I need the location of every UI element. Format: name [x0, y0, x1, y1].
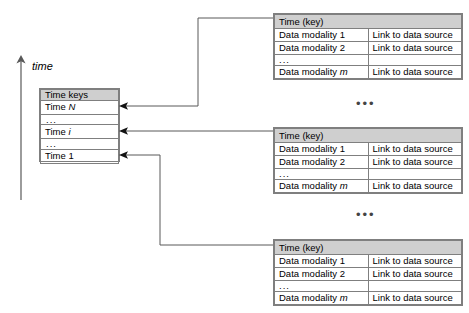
time-keys-label-time-N: Time N	[45, 101, 75, 112]
modality-table-2-link-m[interactable]: Link to data source	[368, 180, 462, 193]
table-row-ellipsis: ...	[275, 55, 462, 66]
time-keys-row-time-1[interactable]: Time 1	[41, 149, 119, 163]
time-keys-row-time-i[interactable]: Time i	[41, 125, 119, 139]
time-keys-row-time-N[interactable]: Time N	[41, 100, 119, 114]
time-axis-arrow	[12, 52, 32, 200]
modality-table-1-link-2[interactable]: Link to data source	[368, 42, 462, 55]
time-keys-header-row: Time keys	[41, 90, 119, 101]
modality-table-2-link-1[interactable]: Link to data source	[368, 143, 462, 156]
modality-table-3-header-row: Time (key)	[275, 241, 462, 255]
table-row: Data modality m Link to data source	[275, 292, 462, 305]
table-row-ellipsis: ...	[275, 281, 462, 292]
modality-table-3-header: Time (key)	[275, 241, 462, 255]
time-keys-row-ellipsis-lower: ...	[41, 139, 119, 150]
time-keys-header: Time keys	[41, 90, 119, 101]
table-row-ellipsis: ...	[275, 169, 462, 180]
modality-table-2-ellipsis: ...	[275, 169, 369, 180]
time-keys-label-time-i: Time i	[45, 126, 71, 137]
arrowhead-timeN-icon	[119, 102, 128, 110]
gap-ellipsis-upper: •••	[356, 97, 376, 110]
modality-table-3-link-1[interactable]: Link to data source	[368, 255, 462, 268]
table-row: Data modality m Link to data source	[275, 180, 462, 193]
modality-table-3-link-m[interactable]: Link to data source	[368, 292, 462, 305]
time-keys-cell-time-N: Time N	[41, 100, 119, 114]
time-keys-cell-time-1: Time 1	[41, 149, 119, 163]
modality-table-3: Time (key) Data modality 1 Link to data …	[273, 239, 463, 306]
modality-table-1-modality-2: Data modality 2	[275, 42, 369, 55]
modality-table-2-link-2[interactable]: Link to data source	[368, 156, 462, 169]
modality-table-2-header: Time (key)	[275, 129, 462, 143]
time-axis-label: time	[32, 60, 53, 72]
modality-table-1-header-row: Time (key)	[275, 15, 462, 29]
modality-table-2-modality-2: Data modality 2	[275, 156, 369, 169]
time-keys-table: Time keys Time N ... Time i ... Time 1	[39, 88, 120, 162]
modality-table-1-modality-m: Data modality m	[275, 66, 369, 79]
arrowhead-time1-icon	[119, 151, 128, 159]
table-row: Data modality 1 Link to data source	[275, 255, 462, 268]
modality-table-2-header-row: Time (key)	[275, 129, 462, 143]
time-keys-cell-ellipsis-upper: ...	[41, 114, 119, 125]
table-row: Data modality 1 Link to data source	[275, 143, 462, 156]
modality-table-1-modality-1: Data modality 1	[275, 29, 369, 42]
modality-table-3-ellipsis-link	[368, 281, 462, 292]
modality-table-1-ellipsis: ...	[275, 55, 369, 66]
diagram-canvas: time Time keys Time N ... Time i ... Tim…	[0, 0, 469, 313]
connector-table1-to-timeN	[126, 18, 273, 106]
modality-table-3-modality-m: Data modality m	[275, 292, 369, 305]
modality-table-3-modality-1: Data modality 1	[275, 255, 369, 268]
modality-table-2-modality-m: Data modality m	[275, 180, 369, 193]
time-keys-row-ellipsis-upper: ...	[41, 114, 119, 125]
table-row: Data modality m Link to data source	[275, 66, 462, 79]
table-row: Data modality 2 Link to data source	[275, 268, 462, 281]
modality-table-1-ellipsis-link	[368, 55, 462, 66]
modality-table-2-modality-1: Data modality 1	[275, 143, 369, 156]
modality-table-3-modality-2: Data modality 2	[275, 268, 369, 281]
table-row: Data modality 2 Link to data source	[275, 42, 462, 55]
table-row: Data modality 1 Link to data source	[275, 29, 462, 42]
modality-table-2: Time (key) Data modality 1 Link to data …	[273, 127, 463, 194]
modality-table-1-header: Time (key)	[275, 15, 462, 29]
time-keys-label-time-1: Time 1	[45, 150, 74, 161]
gap-ellipsis-lower: •••	[356, 208, 376, 221]
time-keys-cell-time-i: Time i	[41, 125, 119, 139]
modality-table-1: Time (key) Data modality 1 Link to data …	[273, 13, 463, 80]
modality-table-2-ellipsis-link	[368, 169, 462, 180]
modality-table-1-link-m[interactable]: Link to data source	[368, 66, 462, 79]
modality-table-1-link-1[interactable]: Link to data source	[368, 29, 462, 42]
modality-table-3-link-2[interactable]: Link to data source	[368, 268, 462, 281]
modality-table-3-ellipsis: ...	[275, 281, 369, 292]
table-row: Data modality 2 Link to data source	[275, 156, 462, 169]
arrowhead-timei-icon	[119, 127, 128, 135]
time-keys-cell-ellipsis-lower: ...	[41, 139, 119, 150]
connector-table3-to-time1	[126, 155, 273, 245]
